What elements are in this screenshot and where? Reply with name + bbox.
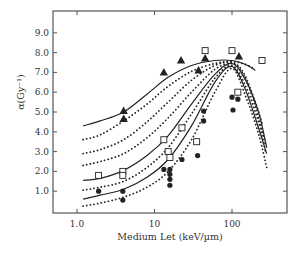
- circle-marker: [201, 108, 206, 113]
- x-tick-label: 10: [149, 219, 161, 229]
- square-marker: [161, 137, 167, 143]
- circle-marker: [235, 97, 240, 102]
- y-tick-label: 2.0: [35, 166, 50, 176]
- y-tick-label: 8.0: [35, 48, 50, 58]
- square-marker: [167, 155, 173, 161]
- square-marker: [202, 48, 208, 54]
- solid-curve: [83, 60, 255, 126]
- dotted-curve: [83, 62, 263, 154]
- solid-curve: [83, 66, 267, 199]
- x-tick-label: 1.0: [70, 219, 85, 229]
- square-marker: [165, 149, 171, 155]
- circle-marker: [230, 107, 235, 112]
- triangle-marker: [235, 52, 243, 60]
- circle-marker: [179, 157, 184, 162]
- model-curves: [83, 60, 267, 206]
- y-tick-label: 6.0: [35, 87, 50, 97]
- y-tick-label: 9.0: [35, 28, 50, 38]
- y-tick-label: 4.0: [35, 127, 50, 137]
- circle-marker: [195, 153, 200, 158]
- alpha-vs-let-chart: 1.010100 1.02.03.04.05.06.07.08.09.0 Med…: [0, 0, 299, 258]
- x-tick-label: 100: [223, 219, 240, 229]
- triangle-marker: [201, 54, 209, 62]
- circle-marker: [120, 198, 125, 203]
- circle-marker: [229, 95, 234, 100]
- circle-marker: [161, 167, 166, 172]
- square-marker: [194, 139, 200, 145]
- circle-marker: [167, 183, 172, 188]
- square-marker: [179, 125, 185, 131]
- square-marker: [229, 48, 235, 54]
- square-marker: [259, 58, 265, 64]
- square-marker: [96, 172, 102, 178]
- circle-marker: [167, 177, 172, 182]
- dotted-curve: [83, 63, 265, 165]
- circle-marker: [120, 189, 125, 194]
- y-tick-label: 1.0: [35, 186, 50, 196]
- triangle-marker: [119, 114, 127, 122]
- circle-marker: [96, 189, 101, 194]
- triangle-marker: [160, 68, 168, 76]
- y-axis-title: α(Gy⁻¹): [15, 74, 26, 110]
- triangle-marker: [177, 56, 185, 64]
- square-marker: [235, 89, 241, 95]
- circle-marker: [167, 172, 172, 177]
- y-tick-label: 7.0: [35, 67, 50, 77]
- y-axis-ticks: 1.02.03.04.05.06.07.08.09.0: [35, 28, 287, 196]
- solid-curve: [83, 63, 267, 180]
- y-tick-label: 5.0: [35, 107, 50, 117]
- circle-marker: [201, 118, 206, 123]
- square-marker: [120, 172, 126, 178]
- circle-marker: [167, 167, 172, 172]
- x-axis-title: Medium Let (keV/µm): [117, 231, 222, 242]
- y-tick-label: 3.0: [35, 147, 50, 157]
